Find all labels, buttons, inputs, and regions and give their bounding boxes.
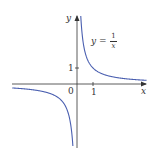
y-tick-label-1: 1 — [68, 64, 74, 73]
equation-fraction: 1 x — [110, 33, 117, 50]
curve-negative-branch — [12, 88, 73, 146]
fraction-denominator: x — [112, 43, 116, 50]
x-tick-label-1: 1 — [91, 88, 97, 97]
equation-lhs: y = — [91, 37, 107, 46]
x-axis-label: x — [141, 87, 146, 96]
origin-label: 0 — [68, 87, 74, 96]
fraction-numerator: 1 — [111, 33, 115, 40]
graph-canvas — [0, 0, 153, 153]
y-axis-label: y — [66, 14, 71, 23]
